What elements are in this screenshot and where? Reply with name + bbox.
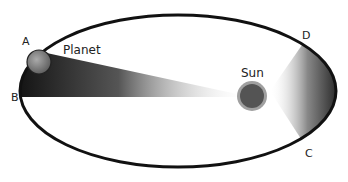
label-a: A [22, 36, 30, 47]
planet-icon [27, 50, 51, 74]
label-d: D [302, 30, 310, 41]
orbit-diagram-graphic [0, 0, 348, 182]
swept-area-cd [270, 45, 345, 145]
label-sun: Sun [241, 67, 264, 79]
label-b: B [11, 92, 19, 103]
label-planet: Planet [63, 44, 101, 56]
label-c: C [305, 148, 313, 159]
sun-icon [240, 84, 264, 108]
kepler-orbit-diagram: A Planet B Sun D C [0, 0, 348, 182]
